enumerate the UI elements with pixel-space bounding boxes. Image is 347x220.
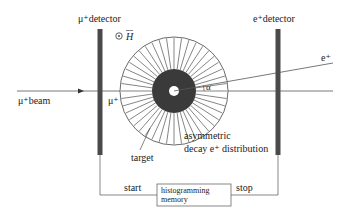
stop-label: stop <box>236 182 253 193</box>
positron-label: e⁺ <box>321 52 331 63</box>
distribution-label-line2: decay e⁺ distribution <box>184 143 268 154</box>
e-detector-label: e⁺detector <box>253 13 296 24</box>
angle-label: α <box>206 82 211 92</box>
beam-label: μ⁺beam <box>18 95 51 106</box>
muon-decay-diagram: μ⁺detector e⁺detector H μ⁺beam μ⁺ e⁺ α t… <box>0 0 347 220</box>
distribution-label-line1: asymmetric <box>184 130 231 141</box>
target-label: target <box>131 152 154 163</box>
field-label: H <box>125 31 134 42</box>
histogram-label-line1: histogramming <box>161 186 209 195</box>
magnetic-field-icon <box>116 33 122 39</box>
mu-detector-bar <box>98 29 103 155</box>
start-label: start <box>124 182 141 193</box>
e-detector-bar <box>276 29 281 155</box>
histogram-label-line2: memory <box>161 195 188 204</box>
mu-detector-label: μ⁺detector <box>78 13 122 24</box>
beam-arrow-icon <box>78 89 84 94</box>
muon-label: μ⁺ <box>108 95 119 106</box>
